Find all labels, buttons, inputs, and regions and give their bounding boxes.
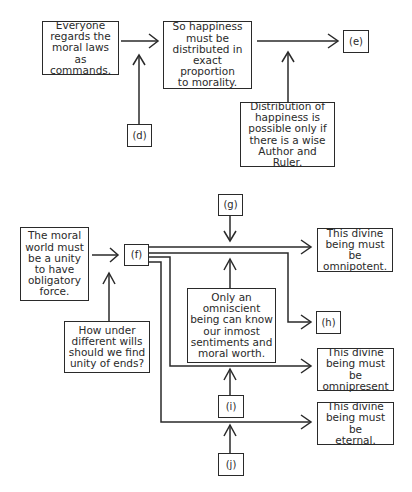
label-d-box: (d) — [127, 124, 152, 147]
argument-diagram: Everyone regards the moral laws as comma… — [0, 0, 412, 492]
happiness-proportion-box: So happiness must be distributed in exac… — [163, 21, 252, 89]
eternal-box: This divine being must be eternal. — [317, 402, 394, 445]
label-g-box: (g) — [218, 194, 243, 216]
label-e-box: (e) — [343, 30, 369, 53]
omnipresent-box: This divine being must be omnipresent — [317, 348, 394, 391]
distribution-box: Distribution of happiness is possible on… — [240, 102, 335, 167]
omniscient-box: Only an omniscient being can know our in… — [187, 288, 276, 363]
moral-world-box: The moral world must be a unity to have … — [20, 227, 89, 301]
label-i-box: (i) — [218, 395, 244, 418]
label-j-box: (j) — [218, 453, 244, 476]
unity-question-box: How under different wills should we find… — [64, 321, 150, 373]
omnipotent-box: This divine being must be omnipotent. — [317, 228, 393, 272]
label-f-box: (f) — [124, 244, 149, 266]
label-h-box: (h) — [316, 311, 341, 334]
moral-laws-box: Everyone regards the moral laws as comma… — [42, 21, 119, 75]
